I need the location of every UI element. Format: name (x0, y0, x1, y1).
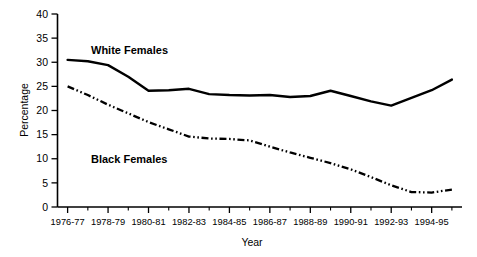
x-axis-title: Year (241, 236, 263, 248)
x-tick-label: 1978-79 (91, 217, 125, 227)
y-axis-title: Percentage (18, 83, 30, 137)
y-tick-label: 10 (36, 152, 48, 164)
line-chart: 0510152025303540 1976-771978-791980-8119… (0, 0, 477, 257)
y-tick-label: 0 (42, 201, 48, 213)
y-tick-label: 20 (36, 104, 48, 116)
x-tick-label: 1982-83 (172, 217, 206, 227)
x-axis-tick-labels: 1976-771978-791980-811982-831984-851986-… (51, 217, 449, 227)
y-tick-label: 25 (36, 80, 48, 92)
x-tick-label: 1994-95 (415, 217, 449, 227)
series-line-white-females (68, 60, 452, 106)
series-label-black-females: Black Females (91, 153, 167, 165)
y-tick-label: 15 (36, 128, 48, 140)
x-tick-label: 1988-89 (293, 217, 327, 227)
y-axis-tick-marks (52, 14, 58, 207)
x-axis-tick-marks (68, 207, 452, 213)
x-tick-label: 1990-91 (334, 217, 368, 227)
x-tick-label: 1976-77 (51, 217, 85, 227)
x-tick-label: 1984-85 (212, 217, 246, 227)
series-label-white-females: White Females (91, 44, 168, 56)
y-tick-label: 5 (42, 177, 48, 189)
x-tick-label: 1992-93 (374, 217, 408, 227)
y-tick-label: 40 (36, 8, 48, 20)
y-tick-label: 35 (36, 32, 48, 44)
y-axis-tick-labels: 0510152025303540 (36, 8, 48, 213)
chart-container: 0510152025303540 1976-771978-791980-8119… (0, 0, 477, 257)
x-tick-label: 1980-81 (131, 217, 165, 227)
series-line-black-females (68, 86, 452, 192)
y-tick-label: 30 (36, 56, 48, 68)
x-tick-label: 1986-87 (253, 217, 287, 227)
